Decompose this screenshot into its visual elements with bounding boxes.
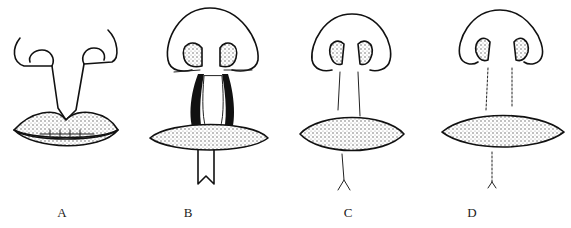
panel-label: A [52,205,72,221]
panel-label: D [462,205,482,221]
panel-label: B [178,205,198,221]
panel-a: A [0,0,140,228]
panel-label: C [338,205,358,221]
illustration-c [280,0,420,200]
illustration-a [0,0,140,200]
illustration-b [140,0,280,200]
panel-d: D [420,0,571,228]
illustration-d [420,0,571,200]
panel-c: C [280,0,420,228]
panel-b: B [140,0,280,228]
